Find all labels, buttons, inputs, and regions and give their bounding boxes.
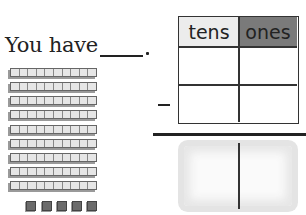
- sum-line: [153, 133, 306, 136]
- cell-row1-tens[interactable]: [179, 48, 238, 84]
- period: [146, 52, 149, 55]
- tens-rod-icon: [10, 181, 97, 190]
- tens-rod-icon: [10, 68, 97, 77]
- place-value-table: tens ones: [178, 16, 299, 124]
- tens-rod-icon: [10, 139, 97, 148]
- tens-rod-icon: [10, 153, 97, 162]
- tens-rod-icon: [10, 125, 97, 134]
- answer-tens[interactable]: [184, 146, 238, 206]
- tens-rod-icon: [10, 82, 97, 91]
- tens-rod-icon: [10, 96, 97, 105]
- tens-rod-icon: [10, 110, 97, 119]
- answer-blank[interactable]: [100, 55, 143, 57]
- answer-ones[interactable]: [240, 146, 292, 206]
- cell-row2-tens[interactable]: [179, 86, 238, 122]
- header-tens: tens: [179, 17, 239, 47]
- ones-cube-icon: [57, 201, 67, 211]
- answer-divider: [238, 143, 240, 209]
- ones-cube-icon: [87, 201, 97, 211]
- ones-cube-icon: [42, 201, 52, 211]
- cell-row1-ones[interactable]: [240, 48, 297, 84]
- minus-sign-icon: [158, 104, 170, 106]
- cell-row2-ones[interactable]: [240, 86, 297, 122]
- ones-cube-icon: [26, 201, 36, 211]
- tens-rod-icon: [10, 167, 97, 176]
- prompt-text: You have: [5, 33, 98, 57]
- header-ones: ones: [239, 17, 297, 47]
- ones-cube-icon: [72, 201, 82, 211]
